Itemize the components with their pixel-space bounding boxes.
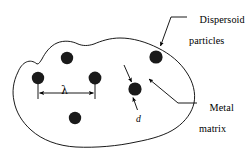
dispersoid-particle xyxy=(61,52,73,64)
dispersoid-particle xyxy=(69,112,81,124)
metal-label-line2: matrix xyxy=(199,124,234,135)
dispersoid-particles-label: Dispersoid particles xyxy=(189,4,245,69)
d-symbol-label: d xyxy=(136,113,141,124)
dispersoid-particle xyxy=(32,72,44,84)
metal-label-line1: Metal xyxy=(210,102,234,113)
metal-matrix-label: Metal matrix xyxy=(199,92,234,156)
dispersoid-particle xyxy=(149,50,162,63)
dispersoid-label-line2: particles xyxy=(189,36,245,47)
dispersoid-label-line1: Dispersoid xyxy=(200,14,245,25)
figure-container: Dispersoid particles Metal matrix λ d xyxy=(0,0,246,156)
lambda-symbol-label: λ xyxy=(61,84,68,97)
dispersoid-leader-line xyxy=(161,17,188,46)
dispersoid-particle xyxy=(89,72,102,85)
dispersoid-particle xyxy=(128,82,141,95)
